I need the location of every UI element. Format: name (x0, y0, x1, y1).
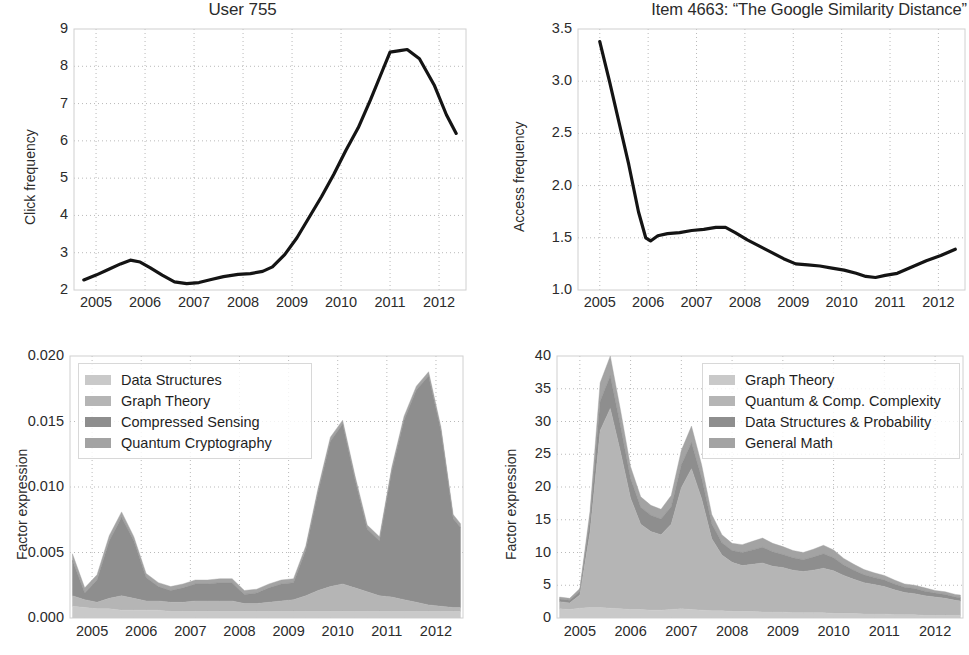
y-tick-label: 5 (56, 169, 68, 185)
x-tick-label: 2012 (416, 294, 462, 310)
x-tick-label: 2007 (167, 623, 213, 639)
x-tick-label: 2012 (915, 294, 961, 310)
y-tick-label: 0.020 (20, 347, 64, 363)
series-line (600, 42, 956, 278)
legend-item-label: Graph Theory (121, 393, 210, 409)
y-tick-label: 2 (56, 281, 68, 297)
x-tick-label: 2011 (364, 623, 410, 639)
y-tick-label: 0 (531, 609, 551, 625)
y-tick-label: 15 (531, 511, 551, 527)
panel-item-access-frequency: Item 4663: “The Google Similarity Distan… (485, 0, 969, 330)
x-tick-label: 2010 (315, 623, 361, 639)
legend-swatch-icon (85, 396, 111, 406)
y-tick-label: 2.0 (544, 177, 572, 193)
legend-swatch-icon (709, 438, 735, 448)
legend-item: Data Structures (85, 369, 303, 390)
x-tick-label: 2010 (819, 294, 865, 310)
y-tick-label: 25 (531, 445, 551, 461)
legend-swatch-icon (709, 417, 735, 427)
x-tick-label: 2005 (557, 623, 603, 639)
legend-item: General Math (709, 432, 951, 453)
y-tick-label: 3.0 (544, 72, 572, 88)
legend-item-label: Data Structures (121, 372, 222, 388)
legend-swatch-icon (709, 375, 735, 385)
y-tick-label: 0.000 (20, 609, 64, 625)
x-tick-label: 2011 (867, 294, 913, 310)
y-tick-label: 0.015 (20, 413, 64, 429)
panel-item-factor-expression: Factor expression Graph TheoryQuantum & … (485, 330, 969, 655)
legend-swatch-icon (85, 438, 111, 448)
legend-item: Graph Theory (709, 369, 951, 390)
legend-item: Quantum & Comp. Complexity (709, 390, 951, 411)
x-tick-label: 2006 (625, 294, 671, 310)
x-tick-label: 2012 (912, 623, 958, 639)
y-tick-label: 0.005 (20, 544, 64, 560)
y-tick-label: 4 (56, 206, 68, 222)
x-tick-label: 2012 (413, 623, 459, 639)
legend-item: Data Structures & Probability (709, 411, 951, 432)
y-tick-label: 30 (531, 413, 551, 429)
legend-bottom-right: Graph TheoryQuantum & Comp. ComplexityDa… (702, 363, 960, 459)
legend-item: Graph Theory (85, 390, 303, 411)
legend-item: Compressed Sensing (85, 411, 303, 432)
x-tick-label: 2007 (658, 623, 704, 639)
x-tick-label: 2007 (674, 294, 720, 310)
x-tick-label: 2008 (709, 623, 755, 639)
x-tick-label: 2005 (73, 294, 119, 310)
y-tick-label: 1.5 (544, 229, 572, 245)
series-line (84, 50, 456, 284)
legend-item-label: Quantum & Comp. Complexity (745, 393, 941, 409)
panel-user-click-frequency: User 755 Click frequency 234567892005200… (0, 0, 485, 330)
x-tick-label: 2009 (760, 623, 806, 639)
x-tick-label: 2011 (861, 623, 907, 639)
y-tick-label: 20 (531, 478, 551, 494)
y-tick-label: 0.010 (20, 478, 64, 494)
legend-bottom-left: Data StructuresGraph TheoryCompressed Se… (78, 363, 312, 459)
x-tick-label: 2010 (318, 294, 364, 310)
x-tick-label: 2009 (770, 294, 816, 310)
y-tick-label: 9 (56, 20, 68, 36)
legend-item-label: Quantum Cryptography (121, 435, 272, 451)
y-tick-label: 5 (531, 576, 551, 592)
four-panel-figure: User 755 Click frequency 234567892005200… (0, 0, 969, 655)
x-tick-label: 2009 (269, 294, 315, 310)
y-tick-label: 10 (531, 544, 551, 560)
legend-item-label: General Math (745, 435, 833, 451)
x-tick-label: 2006 (608, 623, 654, 639)
y-tick-label: 7 (56, 95, 68, 111)
y-tick-label: 35 (531, 380, 551, 396)
plot-area-top-left (0, 0, 485, 330)
x-tick-label: 2005 (69, 623, 115, 639)
legend-item: Quantum Cryptography (85, 432, 303, 453)
legend-item-label: Compressed Sensing (121, 414, 260, 430)
x-tick-label: 2009 (266, 623, 312, 639)
x-tick-label: 2010 (811, 623, 857, 639)
legend-swatch-icon (85, 417, 111, 427)
y-tick-label: 3.5 (544, 20, 572, 36)
y-tick-label: 40 (531, 347, 551, 363)
x-tick-label: 2007 (171, 294, 217, 310)
legend-item-label: Graph Theory (745, 372, 834, 388)
y-tick-label: 2.5 (544, 124, 572, 140)
legend-item-label: Data Structures & Probability (745, 414, 931, 430)
y-tick-label: 3 (56, 244, 68, 260)
x-tick-label: 2011 (367, 294, 413, 310)
legend-swatch-icon (85, 375, 111, 385)
x-tick-label: 2005 (577, 294, 623, 310)
legend-swatch-icon (709, 396, 735, 406)
y-tick-label: 1.0 (544, 281, 572, 297)
x-tick-label: 2008 (216, 623, 262, 639)
x-tick-label: 2008 (722, 294, 768, 310)
panel-user-factor-expression: Factor expression Data StructuresGraph T… (0, 330, 485, 655)
y-tick-label: 6 (56, 132, 68, 148)
x-tick-label: 2006 (122, 294, 168, 310)
y-tick-label: 8 (56, 57, 68, 73)
x-tick-label: 2006 (118, 623, 164, 639)
x-tick-label: 2008 (220, 294, 266, 310)
